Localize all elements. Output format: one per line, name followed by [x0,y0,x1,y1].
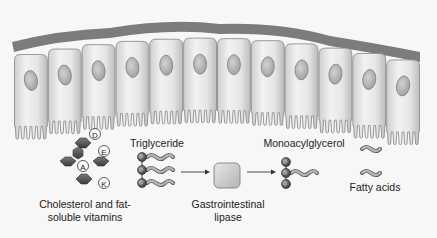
cell-nucleus [193,54,206,74]
vitamin-k: K [99,178,110,189]
triglyceride-molecule [138,153,174,188]
vitamin-e-label: E [101,148,106,157]
epithelial-cell [218,39,251,124]
glycerol-bead-icon [282,158,291,167]
lipase-label: Gastrointestinal lipase [186,198,270,224]
glycerol-bead-icon [138,153,147,162]
arrow-icon [247,170,276,175]
epithelial-cell [353,53,386,138]
sterol-ring-icon [93,157,109,166]
fatty-acids-label: Fatty acids [340,181,410,194]
free-fatty-acids [362,147,380,175]
sterol-ring-icon [76,174,92,184]
triglyceride-label: Triglyceride [126,137,188,150]
epithelial-cell [285,44,318,129]
sterol-ring-icon [60,157,76,166]
sterol-ring-icon [73,147,83,159]
epithelial-cell [15,54,48,139]
arrow-icon [181,170,210,175]
vitamin-k-label: K [101,180,107,189]
epithelial-cell [387,60,420,145]
glycerol-bead-icon [282,180,291,189]
monoacylglycerol-molecule [282,158,318,189]
vitamin-a-label: A [80,163,86,172]
glycerol-bead-icon [282,169,291,178]
monoacylglycerol-label: Monoacylglycerol [256,137,352,150]
epithelial-cell [150,39,183,124]
epithelial-cell [184,38,217,123]
vitamin-e: E [99,146,110,157]
epithelial-cell [48,49,81,134]
sterol-ring-icon [75,138,91,148]
epithelial-cell [82,45,115,130]
glycerol-bead-icon [138,166,147,175]
epithelium [15,38,420,145]
epithelial-cell [319,48,352,133]
epithelial-cell [251,41,284,126]
vitamin-d: D [90,129,101,140]
cell-nucleus [227,55,240,75]
lipase-enzyme-icon [214,163,240,188]
epithelial-cell [116,41,149,126]
vitamin-d-label: D [92,131,98,140]
glycerol-bead-icon [138,179,147,188]
cholesterol-vitamins-label: Cholesterol and fat- soluble vitamins [30,198,140,224]
vitamin-a: A [78,161,89,172]
